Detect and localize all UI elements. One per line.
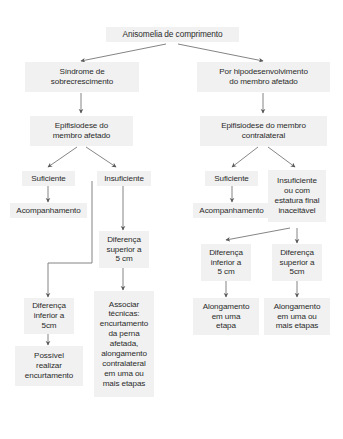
node-root[interactable]: Anisomelia de comprimento [106,27,239,42]
node-associar-tecnicas[interactable]: Associar técnicas: encurtamento da perna… [94,291,154,397]
node-insuficiente-estatura-inaceitavel[interactable]: Insuficiente ou com estatura final inace… [268,170,326,222]
edge-epifcontra-to-suficiente [232,147,258,167]
node-acompanhamento-direita[interactable]: Acompanhamento [193,203,270,218]
node-possivel-realizar-encurtamento[interactable]: Possível realizar encurtamento [15,346,83,386]
node-diferenca-superior-5cm-direita[interactable]: Diferença superior a 5cm [272,244,322,281]
edge-epifafetado-to-insuficiente [86,147,116,167]
node-acompanhamento-esquerda[interactable]: Acompanhamento [10,203,87,218]
edge-epifafetado-to-suficiente [48,147,77,167]
node-diferenca-inferior-5cm-direita[interactable]: Diferença inferior a 5 cm [201,244,251,281]
node-suficiente-esquerda[interactable]: Suficiente [22,171,75,186]
node-suficiente-direita[interactable]: Suficiente [205,171,258,186]
edge-epifcontra-to-insuficiente [268,147,295,167]
node-diferenca-superior-5cm-esquerda[interactable]: Diferença superior a 5 cm [99,231,149,268]
node-diferenca-inferior-5cm-esquerda[interactable]: Diferença inferior a 5cm [24,298,74,334]
edge-root-to-sobrecrescimento [81,44,166,61]
node-epifisiodese-membro-afetado[interactable]: Epifisiodese do membro afetado [30,116,133,146]
node-sindrome-sobrecrescimento[interactable]: Síndrome de sobrecrescimento [25,62,139,92]
node-epifisiodese-membro-contralateral[interactable]: Epifisiodese do membro contralateral [200,116,327,146]
node-por-hipodesenvolvimento[interactable]: Por hipodesenvolvimento do membro afetad… [197,62,330,92]
edge-insuficiente-r-to-difinferior [226,228,290,240]
node-insuficiente-esquerda[interactable]: Insuficiente [97,171,151,186]
flowchart-canvas: Anisomelia de comprimento Síndrome de so… [0,0,343,439]
node-alongamento-uma-ou-mais-etapas[interactable]: Alongamento em uma ou mais etapas [264,298,330,335]
edge-insuficiente-to-difinferior [48,181,92,297]
node-alongamento-uma-etapa[interactable]: Alongamento em uma etapa [193,298,259,335]
edge-root-to-hipodesenvolvimento [178,44,263,61]
